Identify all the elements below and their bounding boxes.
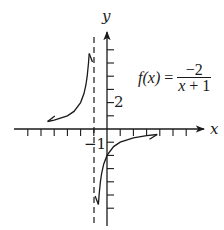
left-branch-curve [48,54,90,122]
denominator: x + 1 [177,78,211,93]
numerator: −2 [184,62,205,77]
curve-arrow-icon [95,196,98,204]
y-axis-label: y [101,7,111,25]
function-formula: f(x) = −2 x + 1 [138,62,211,93]
y-tick-label-2: 2 [114,93,124,111]
function-name: f(x) [138,69,160,87]
curve-arrow-icon [89,54,92,62]
x-axis-label: x [210,120,219,138]
fraction: −2 x + 1 [177,62,211,93]
equals-sign: = [164,69,173,87]
function-graph: y x 2 −1 [0,0,224,230]
denominator-constant: + 1 [185,77,210,94]
x-tick-label-neg1: −1 [84,135,106,153]
